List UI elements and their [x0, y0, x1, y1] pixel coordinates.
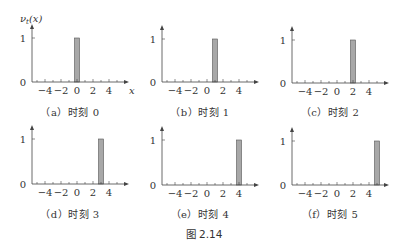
x-tick-label: −4: [168, 85, 183, 96]
panel-caption: （e）时刻 4: [132, 206, 268, 221]
x-tick-label: 4: [106, 187, 112, 198]
chart-panel-e: −4−202401（e）时刻 4: [135, 115, 271, 227]
x-tick-label: 2: [220, 85, 226, 96]
panel-caption: （d）时刻 3: [2, 206, 138, 221]
bar: [237, 140, 242, 185]
y-tick-label: 0: [150, 180, 156, 191]
x-axis-arrow-icon: [124, 80, 129, 84]
y-tick-label: 0: [20, 179, 26, 190]
chart-plot: −4−202401: [135, 0, 271, 112]
y-tick-label: 1: [150, 34, 156, 45]
y-tick-label: 1: [280, 35, 286, 46]
y-tick-label: 0: [280, 180, 286, 191]
y-axis-arrow-icon: [160, 126, 164, 131]
x-tick-label: 4: [366, 188, 372, 199]
y-tick-label: 0: [280, 78, 286, 89]
chart-plot: −4−202401νt(x)x: [0, 0, 136, 112]
x-tick-label: 4: [236, 188, 242, 199]
x-tick-label: −4: [298, 86, 313, 97]
bar: [99, 139, 104, 184]
y-tick-label: 1: [280, 136, 286, 147]
x-tick-label: −2: [314, 188, 329, 199]
x-tick-label: −2: [54, 187, 69, 198]
y-tick-label: 1: [20, 33, 26, 44]
x-tick-label: 0: [204, 85, 210, 96]
y-axis-arrow-icon: [160, 25, 164, 30]
y-axis-arrow-icon: [290, 127, 294, 132]
chart-panel-b: −4−202401（b）时刻 1: [135, 0, 271, 112]
x-tick-label: 4: [366, 86, 372, 97]
x-axis-arrow-icon: [384, 183, 389, 187]
x-tick-label: 2: [350, 188, 356, 199]
bar: [213, 39, 218, 82]
bar: [75, 38, 80, 82]
x-tick-label: −4: [38, 187, 53, 198]
y-axis-arrow-icon: [30, 24, 34, 29]
x-tick-label: −2: [184, 188, 199, 199]
x-tick-label: 0: [204, 188, 210, 199]
x-axis-arrow-icon: [384, 81, 389, 85]
x-tick-label: −2: [184, 85, 199, 96]
chart-panel-f: −4−202401（f）时刻 5: [270, 115, 406, 227]
bar: [375, 141, 380, 185]
chart-panel-c: −4−202401（c）时刻 2: [270, 0, 406, 112]
y-tick-label: 1: [20, 134, 26, 145]
x-axis-arrow-icon: [254, 80, 259, 84]
x-tick-label: 2: [350, 86, 356, 97]
panel-caption: （f）时刻 5: [262, 206, 398, 221]
y-axis-arrow-icon: [30, 125, 34, 130]
x-tick-label: 4: [236, 85, 242, 96]
chart-plot: −4−202401: [270, 0, 406, 112]
x-tick-label: −4: [38, 85, 53, 96]
x-tick-label: −4: [168, 188, 183, 199]
x-tick-label: 0: [334, 86, 340, 97]
x-tick-label: −2: [314, 86, 329, 97]
x-tick-label: −2: [54, 85, 69, 96]
chart-panel-a: −4−202401νt(x)x（a）时刻 0: [0, 0, 136, 112]
y-tick-label: 0: [20, 77, 26, 88]
x-tick-label: 0: [334, 188, 340, 199]
y-tick-label: 0: [150, 77, 156, 88]
figure-caption: 图 2.14: [0, 226, 408, 241]
bar: [351, 40, 356, 83]
y-tick-label: 1: [150, 135, 156, 146]
y-axis-arrow-icon: [290, 26, 294, 31]
x-tick-label: 2: [90, 187, 96, 198]
x-tick-label: 0: [74, 187, 80, 198]
x-tick-label: 2: [90, 85, 96, 96]
x-axis-arrow-icon: [254, 183, 259, 187]
x-axis-arrow-icon: [124, 182, 129, 186]
chart-panel-d: −4−202401（d）时刻 3: [0, 115, 136, 227]
x-tick-label: 0: [74, 85, 80, 96]
x-tick-label: −4: [298, 188, 313, 199]
x-tick-label: 2: [220, 188, 226, 199]
y-axis-label: νt(x): [20, 13, 42, 26]
x-tick-label: 4: [106, 85, 112, 96]
